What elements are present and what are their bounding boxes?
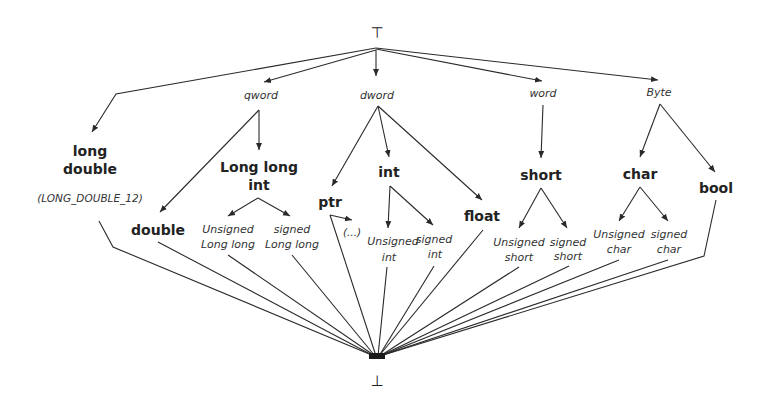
node-short: short <box>520 167 562 183</box>
bottom-symbol: ⊥ <box>370 372 383 390</box>
edge-top-long-double <box>92 48 376 132</box>
node-unsigned-short-line2: short <box>505 251 534 264</box>
edge-sll-bottom <box>292 255 375 356</box>
edge-ushort-bottom <box>380 267 519 356</box>
edge-short-signed <box>541 188 567 228</box>
edge-ull-bottom <box>228 255 375 356</box>
edge-char-signed <box>640 187 668 221</box>
node-unsigned-int-line2: int <box>382 251 397 264</box>
node-signed-char-line1: signed <box>651 228 689 241</box>
bottom-edges <box>99 200 716 359</box>
edge-short-unsigned <box>519 188 541 228</box>
node-long-double-line1: long <box>73 143 107 159</box>
node-signed-short-line1: signed <box>550 236 588 249</box>
edge-top-byte <box>376 48 658 80</box>
node-unsigned-int-line1: Unsigned <box>367 235 420 248</box>
node-long-long-int-line2: int <box>248 177 270 193</box>
long-double-note: (LONG_DOUBLE_12) <box>37 192 143 205</box>
edge-top-qword <box>264 50 376 82</box>
node-float: float <box>464 208 500 224</box>
edge-schar-bottom <box>380 260 668 356</box>
type-lattice-diagram: ⊤ ⊥ qword dword word Byte long double (L… <box>0 0 761 404</box>
node-byte: Byte <box>646 86 671 99</box>
edge-dword-float <box>378 106 482 200</box>
edge-dword-int <box>378 106 389 157</box>
edge-top-word <box>376 49 542 81</box>
node-signed-int-line2: int <box>428 248 443 261</box>
edge-sint-bottom <box>379 266 434 356</box>
node-dword: dword <box>360 89 395 102</box>
node-unsigned-short-line1: Unsigned <box>493 236 546 249</box>
node-signed-char-line2: char <box>657 243 683 256</box>
edge-double-bottom <box>158 242 374 356</box>
node-long-double-line2: double <box>63 161 117 177</box>
node-ptr: ptr <box>318 194 342 210</box>
node-word: word <box>529 87 557 100</box>
edge-sshort-bottom <box>380 266 569 356</box>
node-signed-short-line2: short <box>554 250 583 263</box>
edge-int-signed <box>390 186 433 225</box>
edge-ptr-target <box>330 215 352 220</box>
node-unsigned-long-long-line2: Long long <box>201 238 255 251</box>
edge-word-short <box>541 105 543 158</box>
node-bool: bool <box>699 180 733 196</box>
edge-byte-char <box>640 104 660 157</box>
top-symbol: ⊤ <box>370 24 383 42</box>
node-signed-long-long-line1: signed <box>274 223 312 236</box>
edge-uchar-bottom <box>380 260 619 356</box>
edge-byte-bool <box>660 104 715 172</box>
node-ptr-target: (...) <box>343 226 361 238</box>
edge-longlong-signed <box>258 198 290 216</box>
node-signed-int-line1: signed <box>416 233 454 246</box>
edge-longlong-unsigned <box>228 198 258 216</box>
edge-int-unsigned <box>388 186 390 228</box>
node-long-long-int-line1: Long long <box>220 159 298 175</box>
node-double: double <box>131 222 185 238</box>
node-char: char <box>623 166 658 182</box>
node-unsigned-char-line1: Unsigned <box>593 228 646 241</box>
node-unsigned-long-long-line1: Unsigned <box>202 223 255 236</box>
bottom-junction <box>369 353 385 359</box>
edge-uint-bottom <box>378 267 387 356</box>
edge-char-unsigned <box>619 187 640 221</box>
edge-dword-ptr <box>332 106 378 186</box>
node-int: int <box>378 164 400 180</box>
node-signed-long-long-line2: Long long <box>265 238 319 251</box>
node-qword: qword <box>244 89 279 102</box>
node-unsigned-char-line2: char <box>607 243 633 256</box>
